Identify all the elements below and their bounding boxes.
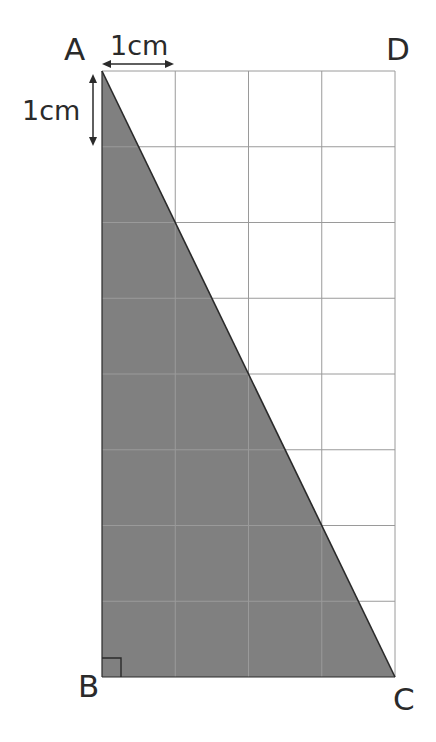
vertex-label-d: D <box>386 31 410 67</box>
vertical-scale-label: 1cm <box>22 95 80 126</box>
vertex-label-b: B <box>78 668 99 704</box>
diagram-canvas: A D B C 1cm 1cm <box>0 0 436 742</box>
vertical-scale-arrow <box>89 74 97 146</box>
horizontal-scale-arrow <box>102 60 174 68</box>
horizontal-scale-label: 1cm <box>110 30 168 61</box>
vertex-label-a: A <box>64 31 85 67</box>
vertex-label-c: C <box>393 681 415 717</box>
